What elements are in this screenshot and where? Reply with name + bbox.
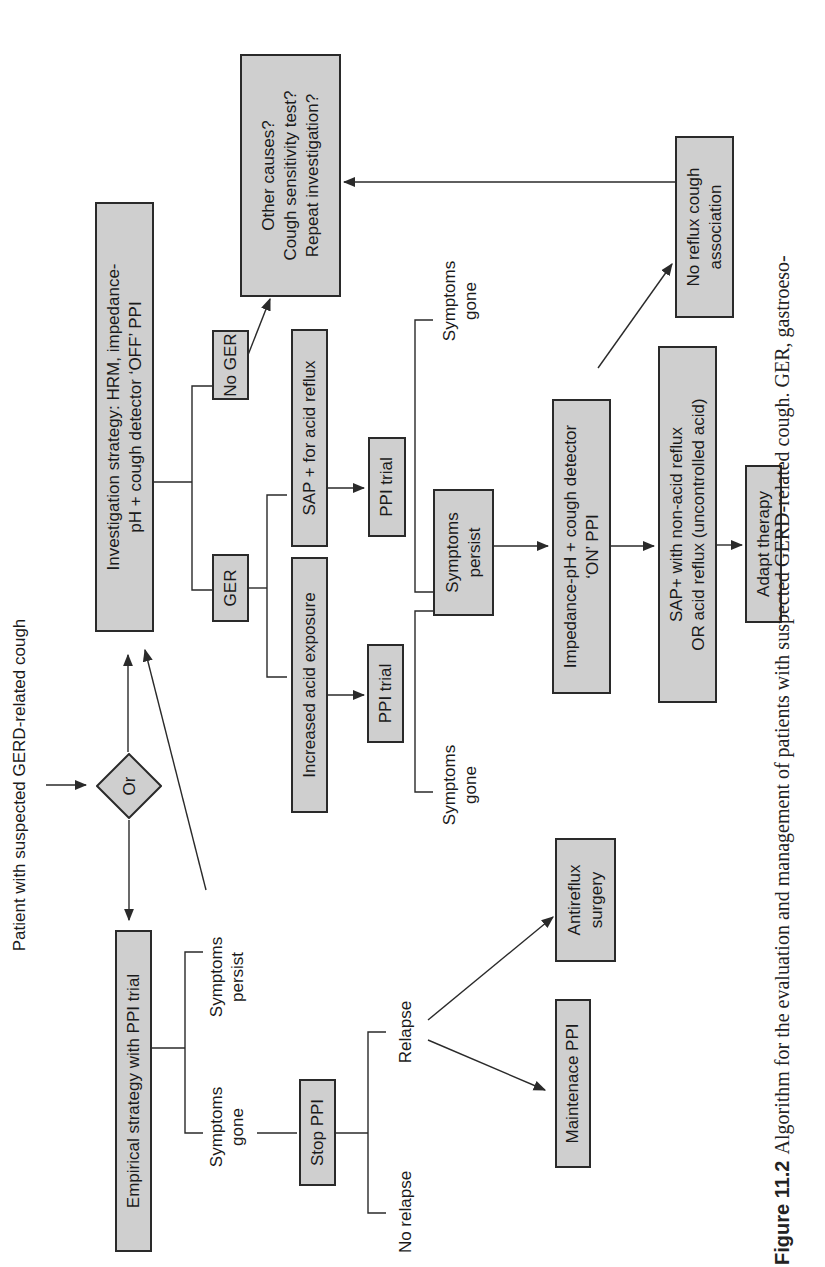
caption-text: Algorithm for the evaluation and managem…: [771, 255, 793, 1154]
no-relapse-label: No relapse: [392, 1162, 418, 1262]
empirical-symptoms-gone-label: Symptoms gone: [203, 1077, 251, 1177]
investigation-strategy-box: Investigation strategy: HRM, impedance- …: [95, 202, 154, 632]
ppi-trial-2-box: PPI trial: [368, 437, 406, 537]
ppi-trial-1-box: PPI trial: [367, 644, 404, 743]
ger-box: GER: [212, 554, 249, 622]
symptoms-gone-label-1: Symptoms gone: [437, 735, 483, 835]
figure-number: Figure 11.2: [771, 1161, 793, 1266]
decision-or-label: Or: [96, 753, 162, 819]
no-reflux-cough-association-box: No reflux cough association: [675, 136, 734, 318]
increased-acid-exposure-box: Increased acid exposure: [291, 557, 328, 813]
stop-ppi-box: Stop PPI: [299, 1079, 336, 1186]
figure-caption: Figure 11.2Algorithm for the evaluation …: [770, 55, 794, 1265]
relapse-label: Relapse: [392, 992, 418, 1072]
impedance-on-ppi-box: Impedance-pH + cough detector ‘ON’ PPI: [552, 399, 611, 694]
sap-nonacid-reflux-box: SAP+ with non-acid reflux OR acid reflux…: [658, 346, 717, 703]
flowchart-canvas: Patient with suspected GERD-related coug…: [0, 0, 825, 1267]
start-label: Patient with suspected GERD-related coug…: [6, 580, 32, 990]
empirical-strategy-box: Empirical strategy with PPI trial: [115, 930, 152, 1252]
sap-acid-reflux-box: SAP + for acid reflux: [291, 329, 328, 547]
empirical-symptoms-persist-label: Symptoms persist: [203, 937, 251, 1017]
maintenance-ppi-box: Maintenace PPI: [555, 999, 591, 1168]
antireflux-surgery-box: Antireflux surgery: [555, 838, 616, 962]
symptoms-gone-label-2: Symptoms gone: [437, 265, 483, 337]
symptoms-persist-box: Symptoms persist: [433, 489, 494, 616]
other-causes-box: Other causes? Cough sensitivity test? Re…: [240, 54, 341, 297]
no-ger-box: No GER: [212, 330, 249, 400]
